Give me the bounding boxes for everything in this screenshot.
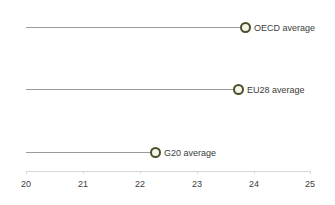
x-axis-tick-22 (140, 171, 141, 174)
series-label-oecd: OECD average (254, 20, 315, 36)
x-axis-label-23: 23 (182, 178, 212, 190)
x-axis-label-25: 25 (295, 178, 325, 190)
series-label-g20: G20 average (164, 145, 216, 161)
data-point-marker-oecd[interactable] (240, 22, 251, 33)
x-axis-label-20: 20 (11, 178, 41, 190)
x-axis-label-24: 24 (239, 178, 269, 190)
data-point-marker-eu28[interactable] (233, 84, 244, 95)
x-axis-tick-24 (254, 171, 255, 174)
chart-container: OECD average EU28 average G20 average 20… (0, 0, 335, 205)
data-point-marker-g20[interactable] (150, 147, 161, 158)
x-axis-tick-25 (310, 171, 311, 174)
x-axis-tick-21 (83, 171, 84, 174)
plot-area: OECD average EU28 average G20 average 20… (0, 0, 335, 205)
series-label-eu28: EU28 average (247, 82, 305, 98)
x-axis-tick-23 (197, 171, 198, 174)
lollipop-row-g20: G20 average (0, 145, 335, 161)
stem-line-oecd (26, 27, 245, 28)
lollipop-row-oecd: OECD average (0, 20, 335, 36)
x-axis-tick-20 (26, 171, 27, 174)
stem-line-g20 (26, 152, 150, 153)
x-axis-label-21: 21 (68, 178, 98, 190)
lollipop-row-eu28: EU28 average (0, 82, 335, 98)
stem-line-eu28 (26, 89, 238, 90)
x-axis-label-22: 22 (125, 178, 155, 190)
x-axis-line (26, 171, 311, 172)
